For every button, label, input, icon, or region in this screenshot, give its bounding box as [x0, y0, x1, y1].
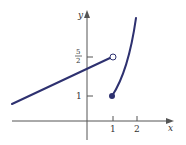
line-segment-left: [12, 58, 110, 104]
function-graph: x y 1 2 1 5 2: [0, 0, 186, 145]
filled-dot-endpoint: [109, 93, 115, 99]
y-tick-label-1: 1: [76, 91, 82, 101]
x-tick-label-2: 2: [134, 124, 140, 134]
x-tick-1: 1: [110, 116, 116, 134]
x-tick-2: 2: [134, 116, 140, 134]
x-axis: x: [12, 118, 174, 133]
y-tick-1: 1: [76, 91, 93, 101]
x-tick-label-1: 1: [110, 124, 116, 134]
y-tick-label-denominator: 2: [76, 57, 80, 65]
y-tick-label-numerator: 5: [76, 48, 80, 56]
open-circle-endpoint: [110, 54, 116, 60]
y-axis-arrow-icon: [84, 10, 90, 18]
y-axis-label: y: [77, 10, 84, 20]
y-tick-5-2: 5 2: [75, 48, 93, 65]
x-axis-label: x: [168, 123, 173, 133]
